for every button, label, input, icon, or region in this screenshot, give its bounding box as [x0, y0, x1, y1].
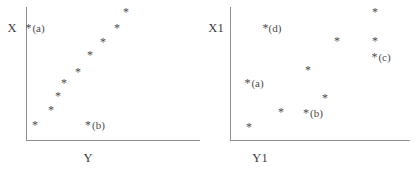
asterisk-marker-icon: * — [100, 35, 106, 49]
y-axis-title-right: X1 — [208, 22, 223, 35]
x-axis-line-left — [26, 140, 200, 141]
point-label: (d) — [269, 22, 282, 34]
y-axis-line-right — [230, 7, 231, 141]
asterisk-marker-icon: * — [372, 34, 378, 48]
data-point: * — [48, 104, 54, 116]
data-point: * — [372, 6, 378, 18]
asterisk-marker-icon: * — [114, 21, 120, 35]
asterisk-marker-icon: * — [87, 48, 93, 62]
x-axis-title-left: Y — [83, 152, 92, 165]
point-label: (b) — [92, 119, 105, 131]
panel-right: *(d) * * * *(c) * *(a) * * *(b) * X1 Y1 — [208, 0, 416, 172]
data-point: * — [305, 64, 311, 76]
asterisk-marker-icon: * — [61, 76, 67, 90]
asterisk-marker-icon: * — [372, 5, 378, 19]
data-point: *(b) — [303, 107, 323, 119]
data-point: * — [372, 35, 378, 47]
asterisk-marker-icon: * — [32, 118, 38, 132]
data-point: * — [32, 119, 38, 131]
asterisk-marker-icon: * — [48, 103, 54, 117]
data-point: * — [100, 36, 106, 48]
asterisk-marker-icon: * — [334, 34, 340, 48]
asterisk-marker-icon: * — [25, 21, 31, 35]
data-point: *(d) — [263, 22, 282, 34]
data-point: * — [123, 6, 129, 18]
data-point: * — [278, 106, 284, 118]
asterisk-marker-icon: * — [246, 120, 252, 134]
plot-area-right: *(d) * * * *(c) * *(a) * * *(b) * X1 Y1 — [208, 0, 416, 172]
point-label: (b) — [310, 107, 323, 119]
asterisk-marker-icon: * — [322, 91, 328, 105]
asterisk-marker-icon: * — [75, 65, 81, 79]
asterisk-marker-icon: * — [244, 76, 250, 90]
asterisk-marker-icon: * — [55, 89, 61, 103]
data-point: * — [87, 49, 93, 61]
point-label: (a) — [251, 77, 263, 89]
data-point: *(a) — [244, 77, 263, 89]
asterisk-marker-icon: * — [85, 118, 91, 132]
data-point: * — [334, 35, 340, 47]
data-point: * — [246, 121, 252, 133]
point-label: (a) — [32, 22, 44, 34]
data-point: *(b) — [85, 119, 105, 131]
asterisk-marker-icon: * — [123, 5, 129, 19]
asterisk-marker-icon: * — [305, 63, 311, 77]
scatter-plot-figure: *(a) * * * * * * * * * *(b) X Y *(d) * *… — [0, 0, 416, 172]
x-axis-title-right: Y1 — [252, 152, 267, 165]
data-point: * — [322, 92, 328, 104]
data-point: * — [61, 77, 67, 89]
asterisk-marker-icon: * — [371, 50, 377, 64]
point-label: (c) — [378, 51, 390, 63]
y-axis-title-left: X — [7, 22, 16, 35]
panel-left: *(a) * * * * * * * * * *(b) X Y — [0, 0, 208, 172]
data-point: *(c) — [371, 51, 390, 63]
x-axis-line-right — [230, 140, 410, 141]
plot-area-left: *(a) * * * * * * * * * *(b) X Y — [0, 0, 208, 172]
asterisk-marker-icon: * — [278, 105, 284, 119]
asterisk-marker-icon: * — [303, 106, 309, 120]
data-point: * — [114, 22, 120, 34]
data-point: * — [55, 90, 61, 102]
data-point: * — [75, 66, 81, 78]
data-point: *(a) — [25, 22, 44, 34]
